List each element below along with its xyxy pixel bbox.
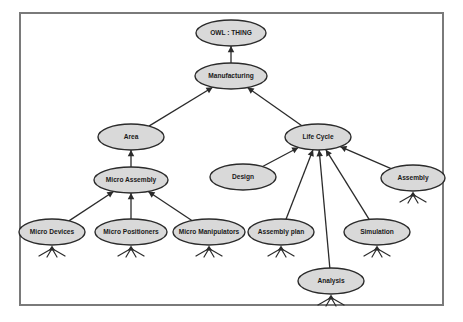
- node-ellipse[interactable]: [285, 124, 351, 150]
- node-ellipse[interactable]: [94, 167, 168, 193]
- edge-is-a: [69, 191, 114, 220]
- node-ellipse[interactable]: [195, 63, 267, 89]
- edge-is-a: [319, 150, 330, 268]
- class-node-assembly[interactable]: Assembly: [381, 165, 445, 191]
- class-node-micro-assembly[interactable]: Micro Assembly: [94, 167, 168, 193]
- node-ellipse[interactable]: [196, 20, 266, 46]
- leaf-marker-head: [328, 294, 334, 299]
- class-node-owl-thing[interactable]: OWL : THING: [196, 20, 266, 46]
- leaf-marker-icon: [196, 245, 222, 257]
- leaf-marker-layer: [39, 191, 426, 306]
- class-node-manufacturing[interactable]: Manufacturing: [195, 63, 267, 89]
- node-ellipse[interactable]: [173, 219, 245, 245]
- edge-is-a: [263, 147, 299, 166]
- node-ellipse[interactable]: [381, 165, 445, 191]
- class-node-assembly-plan[interactable]: Assembly plan: [248, 219, 314, 245]
- node-ellipse[interactable]: [298, 268, 364, 294]
- edge-is-a: [326, 150, 369, 220]
- edge-is-a: [247, 88, 301, 126]
- edge-is-a: [340, 147, 391, 169]
- leaf-marker-icon: [268, 245, 294, 257]
- node-ellipse[interactable]: [95, 219, 167, 245]
- class-node-design[interactable]: Design: [210, 164, 276, 190]
- class-node-area[interactable]: Area: [98, 124, 164, 150]
- node-ellipse[interactable]: [248, 219, 314, 245]
- leaf-marker-head: [128, 245, 134, 250]
- class-node-micro-devices[interactable]: Micro Devices: [19, 219, 85, 245]
- leaf-marker-head: [206, 245, 212, 250]
- leaf-marker-head: [278, 245, 284, 250]
- node-ellipse[interactable]: [344, 219, 410, 245]
- node-ellipse[interactable]: [210, 164, 276, 190]
- leaf-marker-head: [49, 245, 55, 250]
- node-layer: OWL : THINGManufacturingAreaLife CycleMi…: [19, 20, 445, 294]
- node-ellipse[interactable]: [98, 124, 164, 150]
- edge-is-a: [148, 192, 192, 221]
- leaf-marker-head: [374, 245, 380, 250]
- class-node-micro-positioners[interactable]: Micro Positioners: [95, 219, 167, 245]
- edge-is-a: [286, 150, 313, 219]
- edge-is-a: [149, 87, 213, 126]
- class-node-micro-manipulators[interactable]: Micro Manipulators: [173, 219, 245, 245]
- leaf-marker-icon: [118, 245, 144, 257]
- node-ellipse[interactable]: [19, 219, 85, 245]
- leaf-marker-icon: [364, 245, 390, 257]
- class-node-life-cycle[interactable]: Life Cycle: [285, 124, 351, 150]
- class-node-simulation[interactable]: Simulation: [344, 219, 410, 245]
- leaf-marker-icon: [400, 191, 426, 203]
- leaf-marker-icon: [39, 245, 65, 257]
- class-node-analysis[interactable]: Analysis: [298, 268, 364, 294]
- leaf-marker-head: [410, 191, 416, 196]
- diagram-canvas: OWL : THINGManufacturingAreaLife CycleMi…: [0, 0, 463, 322]
- ontology-diagram: OWL : THINGManufacturingAreaLife CycleMi…: [0, 0, 463, 322]
